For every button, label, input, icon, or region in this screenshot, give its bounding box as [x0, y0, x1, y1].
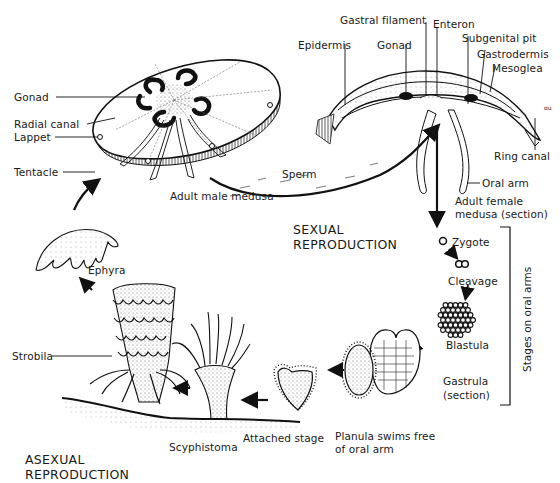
- strobila-leader: [0, 0, 560, 483]
- label-stages-on-oral-arms: Stages on oral arms: [521, 267, 533, 372]
- jellyfish-life-cycle-diagram: Gonad Radial canal Lappet Tentacle Adult…: [0, 0, 560, 483]
